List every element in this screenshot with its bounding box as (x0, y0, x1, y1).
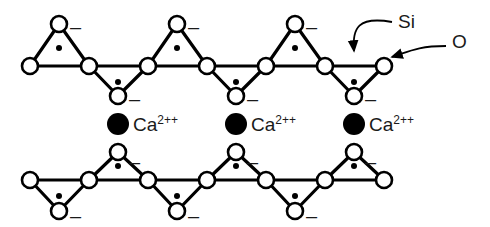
calcium-ion (343, 113, 365, 135)
silicate-chain-diagram: Ca2++Ca2++Ca2++––––––––––––SiO (0, 0, 490, 227)
negative-charge-sign: – (306, 206, 317, 226)
oxygen-atom (317, 58, 333, 74)
silicon-atom (233, 79, 239, 85)
negative-charge-sign: – (247, 89, 258, 109)
silicon-atom (233, 163, 239, 169)
negative-charge-sign: – (247, 152, 258, 172)
oxygen-atom-terminal (228, 88, 244, 104)
oxygen-atom (258, 58, 274, 74)
oxygen-atom-terminal (287, 16, 303, 32)
silicon-atom (292, 45, 298, 51)
negative-charge-sign: – (129, 89, 140, 109)
atom-layer (22, 16, 392, 219)
o-pointer-arrow (392, 46, 446, 57)
negative-charge-sign: – (70, 206, 81, 226)
calcium-symbol: Ca (251, 114, 275, 135)
calcium-charge: 2++ (275, 113, 296, 127)
oxygen-atom (22, 58, 38, 74)
oxygen-atom (199, 172, 215, 188)
calcium-ion (107, 113, 129, 135)
negative-charge-sign: – (365, 152, 376, 172)
silicon-atom (174, 193, 180, 199)
oxygen-atom (81, 172, 97, 188)
oxygen-atom-terminal (51, 16, 67, 32)
silicon-legend-label: Si (398, 12, 415, 31)
calcium-ion-label: Ca2++ (369, 115, 414, 134)
oxygen-atom-terminal (169, 203, 185, 219)
calcium-charge: 2++ (393, 113, 414, 127)
oxygen-legend-label: O (452, 32, 467, 51)
calcium-symbol: Ca (369, 114, 393, 135)
silicon-atom (115, 79, 121, 85)
silicon-atom (351, 163, 357, 169)
silicon-atom (351, 79, 357, 85)
oxygen-atom (81, 58, 97, 74)
negative-charge-sign: – (188, 17, 199, 37)
oxygen-atom-terminal (51, 203, 67, 219)
oxygen-atom-terminal (110, 144, 126, 160)
calcium-ion-label: Ca2++ (133, 115, 178, 134)
silicon-atom (174, 45, 180, 51)
oxygen-atom-terminal (287, 203, 303, 219)
calcium-charge: 2++ (157, 113, 178, 127)
negative-charge-sign: – (365, 89, 376, 109)
oxygen-atom (376, 58, 392, 74)
oxygen-atom-terminal (346, 144, 362, 160)
oxygen-atom (199, 58, 215, 74)
oxygen-atom-terminal (110, 88, 126, 104)
oxygen-atom (22, 172, 38, 188)
oxygen-atom-terminal (346, 88, 362, 104)
negative-charge-sign: – (129, 152, 140, 172)
silicon-atom (56, 45, 62, 51)
si-pointer-arrow (354, 20, 392, 51)
calcium-ion (225, 113, 247, 135)
oxygen-atom-terminal (228, 144, 244, 160)
oxygen-atom (317, 172, 333, 188)
silicon-atom (56, 193, 62, 199)
oxygen-atom (258, 172, 274, 188)
negative-charge-sign: – (188, 206, 199, 226)
oxygen-atom (140, 172, 156, 188)
silicon-atom (115, 163, 121, 169)
calcium-symbol: Ca (133, 114, 157, 135)
negative-charge-sign: – (70, 17, 81, 37)
oxygen-atom (140, 58, 156, 74)
calcium-ion-label: Ca2++ (251, 115, 296, 134)
oxygen-atom-terminal (169, 16, 185, 32)
negative-charge-sign: – (306, 17, 317, 37)
silicon-atom (292, 193, 298, 199)
oxygen-atom (376, 172, 392, 188)
